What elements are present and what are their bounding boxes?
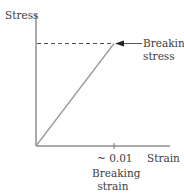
breaking-strain-label-line2: strain xyxy=(92,180,134,192)
stress-strain-diagram xyxy=(0,0,184,195)
breaking-stress-label-line1: Breaking xyxy=(143,37,184,49)
arrow-head-icon xyxy=(115,41,124,47)
breaking-strain-label-line1: Breaking xyxy=(92,167,134,179)
stress-strain-line xyxy=(36,44,114,147)
x-axis-label: Strain xyxy=(147,152,180,164)
y-axis-label: Stress xyxy=(5,9,38,21)
tick-label: ~ 0.01 xyxy=(97,152,133,164)
breaking-stress-label-line2: stress xyxy=(143,50,175,62)
